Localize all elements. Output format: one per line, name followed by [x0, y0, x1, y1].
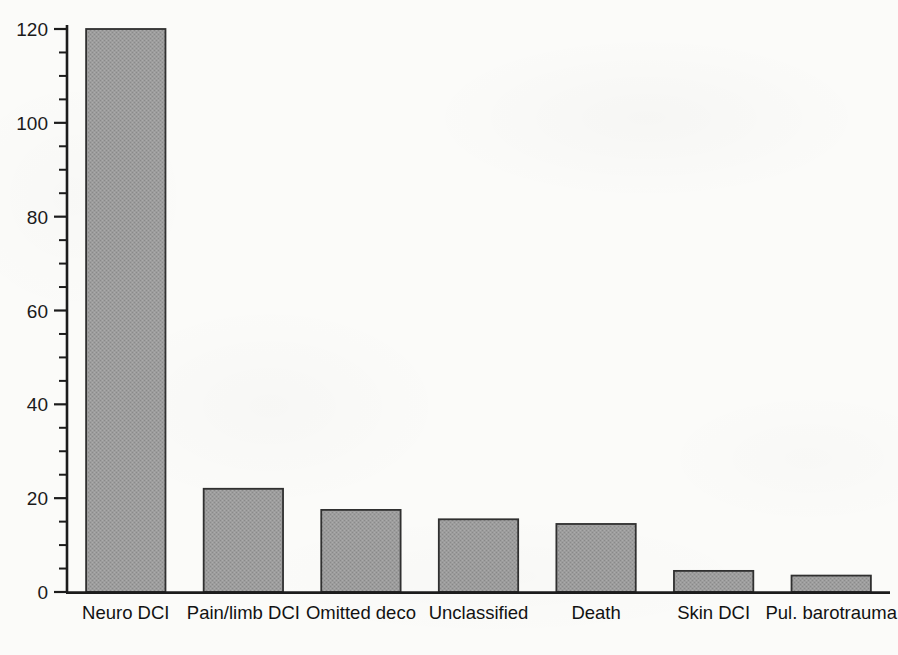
y-tick-label: 0	[37, 582, 48, 603]
y-tick-label: 40	[27, 394, 48, 415]
y-tick-label: 80	[27, 207, 48, 228]
x-category-label: Neuro DCI	[82, 602, 169, 623]
y-tick-label: 60	[27, 301, 48, 322]
x-category-label: Unclassified	[429, 602, 529, 623]
x-category-label: Skin DCI	[677, 602, 750, 623]
x-category-label: Pain/limb DCI	[187, 602, 300, 623]
y-tick-label: 20	[27, 488, 48, 509]
x-category-label: Omitted deco	[306, 602, 416, 623]
x-category-label: Death	[571, 602, 620, 623]
bar-omitted-deco	[321, 510, 400, 592]
chart-page: 020406080100120 Neuro DCIPain/limb DCIOm…	[0, 0, 898, 655]
bar-chart-figure: 020406080100120 Neuro DCIPain/limb DCIOm…	[0, 0, 898, 655]
x-category-label: Pul. barotrauma	[765, 602, 897, 623]
y-tick-label: 120	[16, 19, 48, 40]
x-axis-category-labels: Neuro DCIPain/limb DCIOmitted decoUnclas…	[82, 602, 898, 623]
bar-death	[556, 524, 635, 592]
y-tick-label: 100	[16, 113, 48, 134]
bar-neuro-dci	[86, 29, 165, 592]
bar-pain-limb-dci	[204, 489, 283, 592]
bar-skin-dci	[674, 571, 753, 592]
bar-unclassified	[439, 519, 518, 592]
bar-pul-barotrauma	[792, 576, 871, 592]
